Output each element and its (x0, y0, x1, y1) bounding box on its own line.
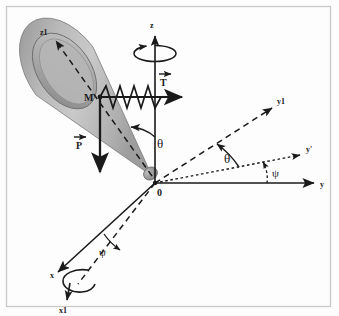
figure-container: z1 z T M P θ 0 y (0, 0, 339, 316)
axis-y1-label: y1 (277, 97, 285, 106)
diagram-canvas: z1 z T M P θ 0 y (0, 0, 339, 316)
axis-x-label: x (50, 271, 54, 280)
angle-psi-plane-label: ψ (272, 167, 279, 179)
angle-theta-plane-label: θ (224, 151, 230, 166)
axis-z1-label: z1 (40, 28, 48, 37)
vector-weight-label: P (76, 140, 82, 151)
mass-label: M (84, 92, 94, 103)
angle-psi-base-label: ψ (99, 246, 106, 258)
axis-x1-label: x1 (59, 306, 67, 315)
axis-y-prime-label: y' (306, 145, 312, 154)
angle-theta-cone-label: θ (157, 136, 163, 151)
axis-z-label: z (150, 21, 154, 30)
origin-label: 0 (157, 187, 162, 198)
axis-y-label: y (320, 180, 324, 189)
vector-tension-label: T (160, 77, 167, 88)
